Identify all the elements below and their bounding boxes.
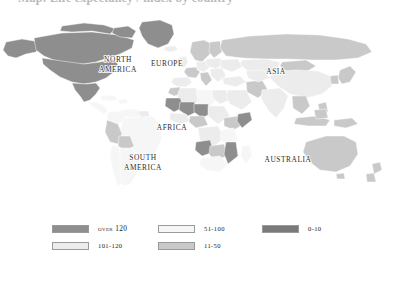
legend-column-2: 51-100 11-50 [158,222,225,256]
legend-item-101-120: 101-120 [52,239,127,252]
figure-world-map: Map: Life expectancy / index by country [0,0,398,281]
country-borneo [314,109,328,119]
country-hispaniola [118,99,128,104]
legend-item-11-50: 11-50 [158,239,225,252]
legend-swatch-51-100 [158,225,195,233]
legend-swatch-101-120 [52,242,89,250]
map-label-north-america: NORTH AMERICA [99,55,137,74]
legend-item-over-120: OVER 120 [52,222,127,235]
country-tasmania [336,173,345,179]
legend-column-1: OVER 120 101-120 [52,222,127,256]
legend-swatch-over-120 [52,225,89,233]
legend-label-51-100: 51-100 [204,225,225,232]
label-africa: AFRICA [157,123,188,132]
map-label-south-america: SOUTH AMERICA [124,153,162,172]
label-south-america-line2: AMERICA [124,163,162,172]
label-north-america-line1: NORTH [104,55,132,64]
legend-item-51-100: 51-100 [158,222,225,235]
map-label-asia: ASIA [266,67,286,76]
label-north-america-line2: AMERICA [99,65,137,74]
label-europe: EUROPE [151,59,183,68]
legend-swatch-0-10 [262,225,299,233]
country-new-zealand-south [366,173,376,182]
label-asia: ASIA [266,67,286,76]
legend-label-101-120: 101-120 [98,242,122,249]
map-label-africa: AFRICA [157,123,188,132]
label-south-america-line1: SOUTH [129,153,156,162]
map-label-europe: EUROPE [151,59,183,68]
map-label-australia: AUSTRALIA [265,155,312,164]
map-legend: OVER 120 101-120 51-100 11-50 0-10 [0,222,398,266]
legend-label-over-120: OVER 120 [98,224,127,233]
map-canvas: NORTH AMERICA EUROPE ASIA AFRICA SOUTH A… [0,14,398,214]
world-map-svg: NORTH AMERICA EUROPE ASIA AFRICA SOUTH A… [0,14,398,214]
legend-item-0-10: 0-10 [262,222,322,235]
legend-label-0-10: 0-10 [308,225,322,232]
country-korea [330,75,339,84]
legend-label-11-50: 11-50 [204,242,221,249]
legend-swatch-11-50 [158,242,195,250]
page-title: Map: Life expectancy / index by country [18,0,233,6]
label-australia: AUSTRALIA [265,155,312,164]
legend-column-3: 0-10 [262,222,322,239]
